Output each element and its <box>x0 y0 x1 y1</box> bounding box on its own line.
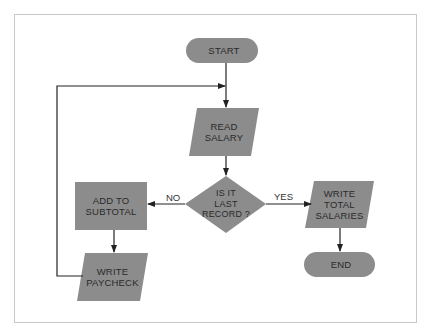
end-label: END <box>304 252 378 277</box>
no-edge-label: NO <box>166 192 180 203</box>
add-subtotal-label: ADD TO SUBTOTAL <box>75 182 147 230</box>
yes-edge-label: YES <box>274 191 293 202</box>
read-salary-label: READ SALARY <box>189 108 259 156</box>
write-paycheck-label: WRITE PAYCHECK <box>77 253 148 301</box>
start-label: START <box>186 38 262 63</box>
decision-label: IS IT LAST RECORD ? <box>190 178 262 230</box>
write-total-label: WRITE TOTAL SALARIES <box>305 181 374 228</box>
